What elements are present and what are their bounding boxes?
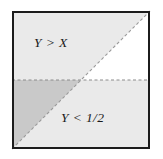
unit-square-diagram: Y > X Y < 1/2 <box>0 0 163 159</box>
label-y-less-than-half: Y < 1/2 <box>61 110 104 125</box>
label-y-greater-than-x: Y > X <box>34 35 68 50</box>
figure-container: Y > X Y < 1/2 <box>0 0 163 159</box>
